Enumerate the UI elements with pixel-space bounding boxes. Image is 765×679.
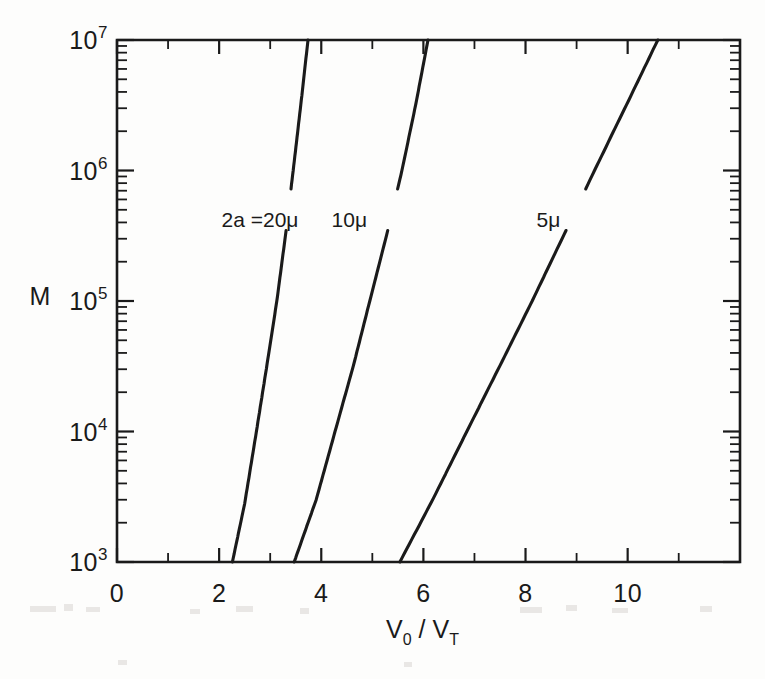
x-tick-label: 0 <box>110 579 124 607</box>
scan-speck <box>612 608 628 613</box>
scan-speck <box>566 605 577 611</box>
x-tick-label: 8 <box>518 579 532 607</box>
curve-2 <box>294 231 388 563</box>
scan-speck <box>118 660 127 665</box>
y-axis-tick-labels: 103104105106107 <box>69 23 108 576</box>
y-axis-ticks <box>117 40 740 562</box>
scan-speck <box>86 607 100 612</box>
scan-speck <box>190 609 200 614</box>
x-axis-title: V0 / VT <box>386 615 459 648</box>
curve-3 <box>586 40 658 189</box>
plot-frame <box>117 40 740 562</box>
scan-speck <box>520 607 542 613</box>
x-axis-ticks <box>117 40 679 562</box>
scan-speck <box>30 606 56 612</box>
curve-labels: 2a =20μ10μ5μ <box>222 208 561 231</box>
chart-canvas: 103104105106107 0246810 2a =20μ10μ5μ M V… <box>0 0 765 679</box>
curve-label-2: 10μ <box>332 208 367 231</box>
curve-label-3: 5μ <box>537 208 561 231</box>
x-axis-title-v-sub: 0 <box>403 631 412 648</box>
x-axis-tick-labels: 0246810 <box>110 579 642 607</box>
x-tick-label: 6 <box>416 579 430 607</box>
y-axis-title-text: M <box>30 282 51 310</box>
x-tick-label: 10 <box>613 579 642 607</box>
y-tick-label: 105 <box>69 284 108 315</box>
curve-label-1: 2a =20μ <box>222 208 299 231</box>
y-tick-label: 103 <box>69 545 108 576</box>
scan-speck <box>404 662 412 667</box>
y-tick-label: 106 <box>69 154 108 185</box>
x-axis-title-slash: / <box>419 615 426 643</box>
x-axis-title-text: V0 / VT <box>386 615 459 648</box>
curve-2 <box>398 40 428 189</box>
x-tick-label: 2 <box>212 579 226 607</box>
x-axis-title-v2-sub: T <box>449 631 459 648</box>
data-curves <box>232 40 657 562</box>
scan-speck <box>236 606 253 612</box>
scan-speck <box>700 606 712 612</box>
scan-speck <box>64 604 73 611</box>
curve-1 <box>232 231 286 563</box>
curve-1 <box>291 40 308 189</box>
x-axis-title-v2-main: V <box>432 615 449 643</box>
y-tick-label: 104 <box>69 415 108 446</box>
y-axis-title: M <box>30 282 51 310</box>
x-axis-title-v-main: V <box>386 615 403 643</box>
scan-speck <box>300 608 309 614</box>
y-tick-label: 107 <box>69 23 108 54</box>
x-tick-label: 4 <box>314 579 328 607</box>
figure-container: 103104105106107 0246810 2a =20μ10μ5μ M V… <box>0 0 765 679</box>
curve-3 <box>400 231 566 563</box>
